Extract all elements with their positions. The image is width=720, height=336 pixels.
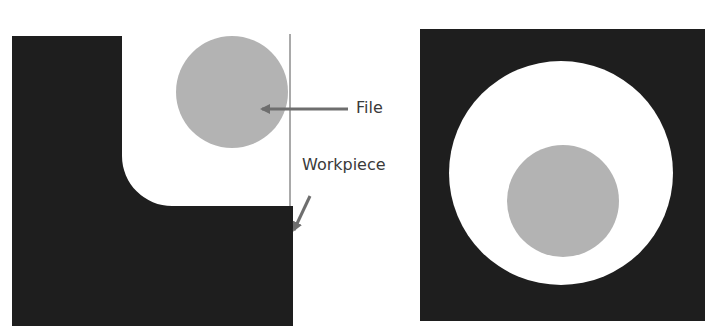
file-circle-right	[507, 145, 619, 257]
right-panel	[420, 29, 705, 321]
workpiece-arrow	[294, 196, 310, 230]
left-panel	[12, 34, 348, 326]
file-circle	[176, 36, 288, 148]
file-label: File	[356, 98, 383, 117]
workpiece-label: Workpiece	[302, 155, 386, 174]
